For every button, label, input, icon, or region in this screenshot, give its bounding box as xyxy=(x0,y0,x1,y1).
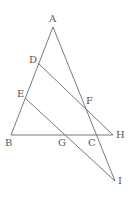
label-b: B xyxy=(5,137,12,148)
segment-ai xyxy=(53,27,115,181)
label-i: I xyxy=(118,175,122,186)
geometry-diagram: A D E B G C F H I xyxy=(0,0,133,198)
segment-ab xyxy=(11,27,53,135)
label-d: D xyxy=(29,54,37,65)
label-g: G xyxy=(58,137,66,148)
segment-ei xyxy=(25,98,115,181)
label-f: F xyxy=(86,95,93,106)
label-a: A xyxy=(48,13,57,24)
segment-dh xyxy=(38,63,113,135)
label-h: H xyxy=(116,129,125,140)
label-e: E xyxy=(17,88,24,99)
label-c: C xyxy=(88,137,96,148)
